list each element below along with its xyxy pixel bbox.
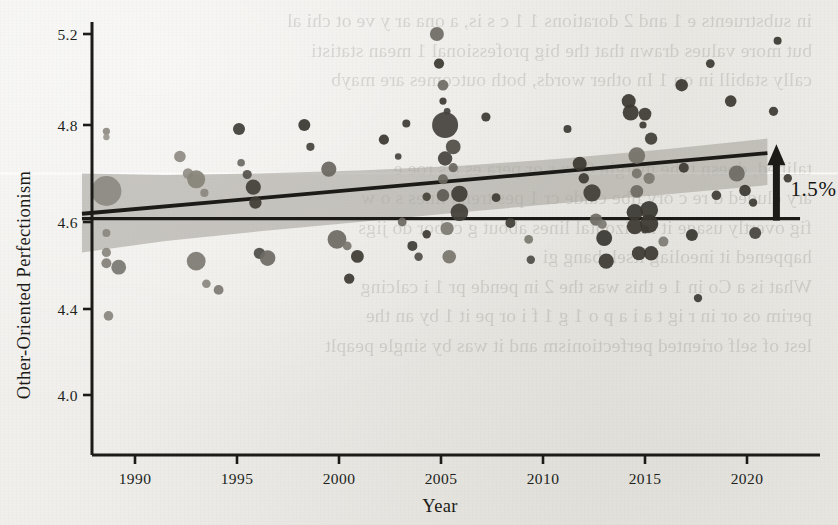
scatter-point [579, 173, 589, 183]
scatter-point [407, 241, 417, 251]
scatter-point [639, 108, 652, 121]
scatter-point [202, 280, 211, 289]
scatter-point [583, 184, 600, 201]
scatter-point [441, 222, 454, 235]
axes-layer [83, 22, 820, 464]
scatter-point [725, 95, 737, 107]
scatter-point [174, 151, 186, 163]
x-axis-title: Year [422, 496, 457, 516]
scatter-point [200, 189, 208, 197]
x-axis-tick-labels: 1990199520002005201020152020 [119, 470, 764, 487]
scatter-point [434, 59, 444, 69]
scatter-point [414, 253, 422, 261]
scatter-point [104, 311, 114, 321]
scatter-point [306, 143, 314, 151]
scatter-point [187, 252, 206, 271]
scatter-point [623, 105, 639, 121]
scatter-point [237, 159, 245, 167]
y-tick-label: 4.6 [57, 214, 78, 231]
scatter-point [423, 230, 431, 238]
y-tick-label: 4.8 [57, 117, 78, 134]
x-tick-label: 2020 [731, 470, 764, 487]
scatter-point [437, 189, 449, 201]
scatter-point [102, 248, 111, 257]
scatter-point [395, 153, 402, 160]
scatter-point [645, 132, 657, 144]
scatter-point [749, 227, 761, 239]
scatter-point [573, 157, 587, 171]
scatter-point [644, 173, 655, 184]
scatter-point [430, 27, 444, 41]
scatter-point [644, 246, 658, 260]
scatter-point [432, 112, 458, 138]
x-tick-label: 2010 [527, 470, 560, 487]
y-axis-title: Other-Oriented Perfectionism [14, 170, 34, 399]
scatter-point [187, 170, 205, 188]
scatter-point [102, 229, 110, 237]
scatter-point [103, 128, 110, 135]
scatter-point [676, 79, 688, 91]
scatter-point [769, 107, 778, 116]
x-tick-label: 2005 [425, 470, 458, 487]
scatter-point [632, 169, 642, 179]
scatter-point [423, 193, 431, 201]
scatter-point [402, 119, 410, 127]
scatter-point [599, 254, 614, 269]
scatter-point [729, 166, 745, 182]
y-tick-label: 4.4 [57, 301, 78, 318]
scatter-point [481, 112, 490, 121]
x-tick-label: 2000 [323, 470, 356, 487]
scatter-point [451, 186, 467, 202]
scatter-point [451, 204, 469, 222]
increase-arrow-icon [767, 144, 785, 220]
scatter-point [641, 225, 649, 233]
scatter-point [492, 193, 501, 202]
scatter-point [91, 176, 121, 206]
scatter-plot-figure: 5.24.84.64.44.0 199019952000200520102015… [0, 0, 838, 525]
scatter-point [630, 185, 643, 198]
scatter-point [103, 134, 109, 140]
scatter-point [686, 229, 698, 241]
scatter-point [439, 98, 446, 105]
scatter-point [246, 180, 261, 195]
scatter-point [379, 135, 389, 145]
scatter-point [564, 125, 572, 133]
scatter-point [438, 174, 448, 184]
plot-canvas: 5.24.84.64.44.0 199019952000200520102015… [0, 0, 838, 525]
x-tick-label: 2015 [629, 470, 662, 487]
x-tick-label: 1995 [221, 470, 254, 487]
scatter-point [632, 246, 646, 260]
scatter-point [524, 235, 533, 244]
scatter-point [398, 218, 407, 227]
scatter-point [527, 256, 535, 264]
scatter-point [598, 220, 607, 229]
scatter-point [658, 237, 668, 247]
scatter-point [639, 121, 646, 128]
scatter-point [233, 123, 245, 135]
scatter-point [774, 37, 782, 45]
scatter-point [249, 196, 261, 208]
x-tick-label: 1990 [119, 470, 152, 487]
scatter-point [442, 250, 456, 264]
scatter-point [351, 250, 364, 263]
scatter-point [739, 185, 751, 197]
scatter-point [438, 151, 452, 165]
scatter-point [243, 170, 252, 179]
scatter-point [111, 260, 126, 275]
y-tick-label: 4.0 [57, 387, 78, 404]
scatter-point [628, 147, 645, 164]
scatter-point [596, 230, 612, 246]
y-axis-tick-labels: 5.24.84.64.44.0 [57, 26, 78, 404]
scatter-point [214, 285, 224, 295]
scatter-point [344, 273, 354, 283]
scatter-point [679, 163, 689, 173]
scatter-point [101, 258, 111, 268]
increase-annotation: 1.5% [767, 144, 836, 220]
scatter-point [298, 119, 310, 131]
increase-annotation-label: 1.5% [790, 177, 836, 201]
scatter-point [321, 162, 336, 177]
scatter-point [706, 59, 715, 68]
y-tick-label: 5.2 [57, 26, 78, 43]
scatter-point [712, 191, 722, 201]
scatter-point [505, 218, 515, 228]
